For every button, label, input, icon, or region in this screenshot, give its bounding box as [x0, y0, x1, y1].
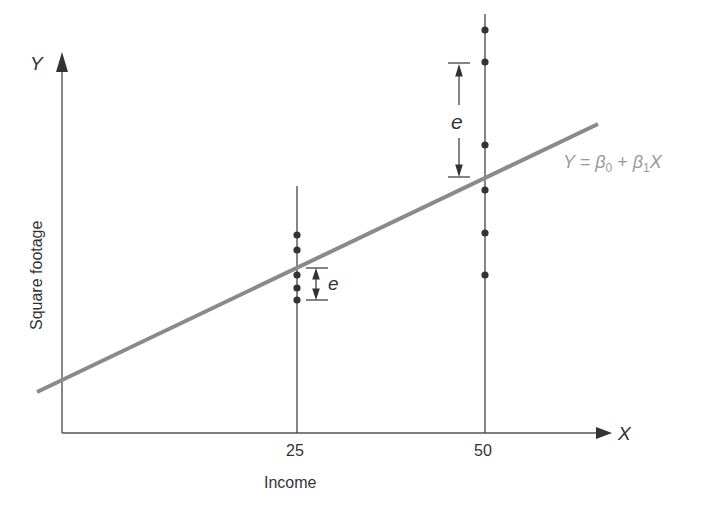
- data-point: [481, 58, 488, 65]
- data-point: [293, 284, 300, 291]
- arrow-up-icon: [313, 270, 319, 279]
- data-point: [293, 231, 300, 238]
- y-axis-label: Square footage: [28, 220, 45, 330]
- x-tick-25: 25: [286, 442, 304, 459]
- regression-diagram: Y X Square footage Income 25 50 e: [0, 0, 727, 512]
- error-bracket-25: [306, 268, 328, 300]
- error-label-25: e: [328, 273, 339, 294]
- data-point: [293, 246, 300, 253]
- x-tick-50: 50: [474, 442, 492, 459]
- data-point: [481, 26, 488, 33]
- data-point: [293, 296, 300, 303]
- regression-line: [37, 124, 598, 392]
- error-label-50: e: [451, 110, 463, 133]
- data-point: [481, 229, 488, 236]
- x-axis: [62, 427, 612, 439]
- regression-equation: Y = β0 + β1X: [563, 152, 663, 175]
- x-axis-symbol: X: [617, 423, 632, 444]
- arrow-down-icon: [313, 289, 319, 298]
- x-axis-arrow-icon: [596, 427, 612, 439]
- data-point: [481, 186, 488, 193]
- data-point: [481, 141, 488, 148]
- arrow-up-icon: [456, 66, 462, 76]
- data-point: [293, 271, 300, 278]
- y-axis-symbol: Y: [30, 53, 44, 74]
- data-point: [481, 271, 488, 278]
- x-axis-label: Income: [264, 474, 317, 491]
- y-axis-arrow-icon: [56, 52, 68, 72]
- arrow-down-icon: [456, 165, 462, 175]
